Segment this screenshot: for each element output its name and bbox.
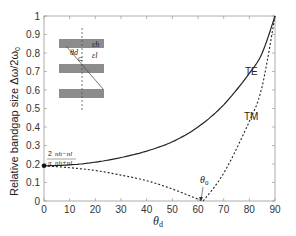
theta0-annotation: θ0	[199, 174, 209, 201]
bandgap-chart: 00.10.20.30.40.50.60.70.80.91 0102030405…	[0, 0, 296, 236]
arrow-head-icon	[199, 197, 203, 201]
formula-pi: π	[48, 159, 52, 167]
x-tick-label: 30	[115, 204, 127, 215]
inset-eps-l: εl	[92, 51, 98, 60]
y-tick-label: 0.4	[26, 122, 40, 133]
y-tick-label: 0.7	[26, 66, 40, 77]
inset-layer-2	[59, 64, 104, 73]
inset-point-c: C	[78, 56, 83, 62]
x-tick-label: 0	[41, 204, 47, 215]
te-label: TE	[245, 66, 258, 77]
y-tick-label: 1	[34, 11, 40, 22]
x-tick-label: 20	[90, 204, 102, 215]
y-axis-label: Relative bandgap size Δω/2ω0	[8, 47, 21, 196]
y-tick-label: 0.1	[26, 177, 40, 188]
tm-label: TM	[244, 111, 258, 122]
formula-2: 2	[48, 150, 52, 157]
y-tick-label: 0.9	[26, 29, 40, 40]
x-tick-label: 60	[192, 204, 204, 215]
y-tick-label: 0.2	[26, 159, 40, 170]
y-tick-label: 0	[34, 196, 40, 207]
x-tick-label: 80	[244, 204, 256, 215]
formula-annotation: 2 π nh−nl nh+nl	[47, 150, 76, 167]
y-tick-label: 0.6	[26, 85, 40, 96]
y-tick-label: 0.5	[26, 103, 40, 114]
theta0-label: θ0	[200, 174, 209, 187]
x-tick-label: 10	[64, 204, 76, 215]
formula-numerator: nh−nl	[55, 150, 72, 158]
x-tick-label: 70	[218, 204, 230, 215]
start-point-marker	[42, 164, 47, 169]
x-axis-label: θd	[153, 214, 163, 229]
x-tick-label: 90	[269, 204, 281, 215]
x-tick-label: 40	[141, 204, 153, 215]
inset-eps-h: εh	[92, 40, 99, 49]
y-tick-label: 0.3	[26, 140, 40, 151]
inset-layer-3	[59, 89, 104, 98]
x-tick-label: 50	[167, 204, 179, 215]
formula-denominator: nh+nl	[55, 159, 72, 167]
y-tick-label: 0.8	[26, 48, 40, 59]
inset-multilayer-diagram: εh εl θd C	[59, 28, 104, 112]
